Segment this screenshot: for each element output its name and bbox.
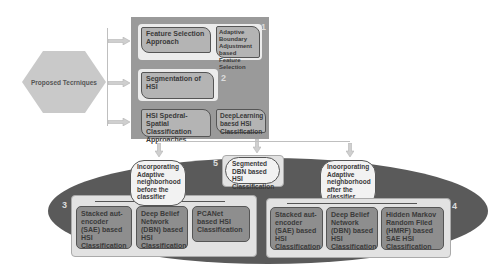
group3-sae-box: Stacked aut-encoder (SAE) based HSI Clas… (76, 206, 132, 249)
arrow-right-icon (108, 79, 130, 87)
feature-selection-box: Feature Selection Approach (141, 27, 211, 53)
group4-dbn-box: Deep Belief Network (DBN) based HSI Clas… (326, 207, 378, 250)
group-number-3: 3 (62, 200, 67, 210)
adaptive-boundary-box: Adaptive Boundary Adjustment based Featu… (216, 26, 260, 58)
group4-sae-box: Stacked aut-encoder (SAE) based HSI Clas… (270, 207, 323, 250)
techniques-panel: 1 Feature Selection Approach Adaptive Bo… (131, 17, 269, 139)
group4-hmrf-box: Hidden Markov Random Filed (HMRF) based … (381, 207, 444, 250)
group3-pcanet-box: PCANet based HSI Classification (192, 206, 250, 242)
proposed-techniques-node: Proposed Tecrniques (22, 51, 106, 113)
before-classifier-oval: Incorporating Adaptive neighborhood befo… (130, 160, 186, 206)
arrow-down-icon (346, 143, 354, 157)
section-number-1: 1 (261, 22, 266, 32)
arrow-right-icon (108, 37, 130, 45)
center-number-5: 5 (213, 158, 218, 168)
group3-dbn-box: Deep Belief Network (DBN) based HSI Clas… (136, 206, 188, 249)
connector-line (287, 203, 417, 204)
arrow-right-icon (108, 118, 130, 126)
connector-line (158, 141, 350, 142)
root-label: Proposed Tecrniques (22, 51, 106, 113)
arrow-down-icon (155, 143, 163, 157)
spectral-spatial-box: HSI Spedral-Spatial Classification Appro… (141, 109, 211, 137)
deep-learning-box: DeepLearning baesd HSI Classification (216, 109, 266, 133)
segmentation-box: Segmentation of HSI (141, 72, 214, 99)
segmented-dbn-oval: Segmented DBN based HSI Classification (225, 157, 280, 184)
section-number-2: 2 (221, 73, 226, 83)
group-number-4: 4 (452, 201, 457, 211)
